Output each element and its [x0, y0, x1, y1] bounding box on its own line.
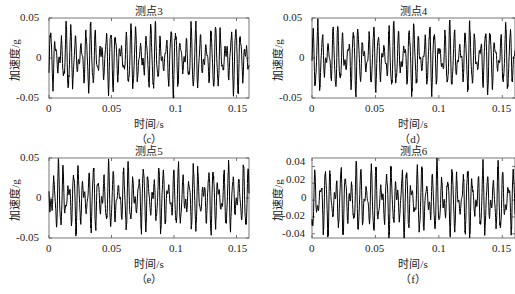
x-tick: 0 — [309, 242, 315, 254]
x-tick: 0.1 — [169, 102, 183, 114]
x-tick: 0.1 — [169, 242, 183, 254]
x-tick: 0.15 — [492, 102, 511, 114]
panel-title: 测点5 — [49, 142, 249, 158]
x-tick: 0.15 — [492, 242, 511, 254]
x-tick: 0 — [46, 242, 52, 254]
y-tick: -0.02 — [282, 209, 305, 221]
y-tick: 0 — [36, 191, 42, 203]
plot-area — [49, 158, 249, 238]
y-tick: 0 — [299, 51, 305, 63]
y-tick: -0.05 — [16, 91, 39, 103]
x-tick: 0.05 — [102, 242, 121, 254]
y-tick: 0 — [36, 51, 42, 63]
panel-title: 测点3 — [49, 2, 249, 18]
x-tick: 0.05 — [365, 102, 384, 114]
signal-line — [312, 19, 515, 97]
y-tick: 0.05 — [20, 151, 39, 163]
x-tick: 0 — [46, 102, 52, 114]
subfigure-label: （f） — [363, 270, 463, 286]
plot-area — [312, 158, 515, 238]
y-tick: 0.02 — [286, 173, 305, 185]
y-tick: -0.05 — [279, 91, 302, 103]
plot-area — [312, 18, 515, 98]
x-tick: 0.05 — [102, 102, 121, 114]
y-tick: 0.05 — [20, 11, 39, 23]
x-tick: 0.1 — [432, 242, 446, 254]
signal-line — [49, 21, 249, 98]
x-axis-label: 时间/s — [99, 255, 199, 271]
y-axis-label: 加速度/g — [6, 160, 22, 240]
subfigure-label: （e） — [99, 270, 199, 286]
y-tick: -0.05 — [16, 231, 39, 243]
x-axis-label: 时间/s — [99, 115, 199, 131]
x-tick: 0 — [309, 102, 315, 114]
signal-line — [49, 159, 249, 237]
x-tick: 0.15 — [228, 242, 247, 254]
plot-area — [49, 18, 249, 98]
signal-line — [312, 158, 515, 238]
x-tick: 0.15 — [228, 102, 247, 114]
y-tick: 0.05 — [283, 11, 302, 23]
panel-title: 测点6 — [312, 142, 515, 158]
panel-title: 测点4 — [312, 2, 515, 18]
x-tick: 0.05 — [365, 242, 384, 254]
y-axis-label: 加速度/g — [269, 20, 285, 100]
x-tick: 0.1 — [432, 102, 446, 114]
y-tick: 0 — [301, 191, 307, 203]
x-axis-label: 时间/s — [363, 255, 463, 271]
y-tick: -0.04 — [282, 227, 305, 239]
x-axis-label: 时间/s — [363, 115, 463, 131]
y-axis-label: 加速度/g — [6, 20, 22, 100]
y-tick: 0.04 — [286, 155, 305, 167]
